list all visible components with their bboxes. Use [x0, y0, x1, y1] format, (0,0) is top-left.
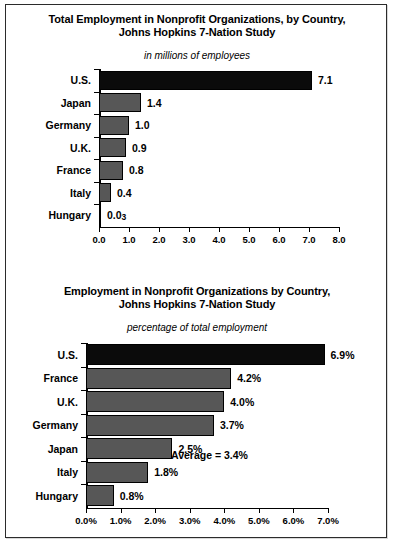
- chart-title: Employment in Nonprofit Organizations by…: [17, 267, 377, 311]
- category-label: Germany: [32, 420, 78, 431]
- category-label: U.K.: [57, 397, 78, 408]
- bar-value-label: 4.0%: [230, 397, 254, 408]
- category-label: France: [57, 165, 91, 176]
- x-axis-tick: [309, 228, 310, 232]
- bar-value-label: 1.4: [147, 98, 162, 109]
- bar: [86, 438, 172, 459]
- x-axis-tick-label: 7.0%: [308, 515, 348, 526]
- bar: [99, 116, 129, 135]
- bar-value-label: 3.7%: [220, 420, 244, 431]
- category-label: Italy: [70, 188, 91, 199]
- chart-total-employment: Total Employment in Nonprofit Organizati…: [6, 5, 388, 267]
- bar: [99, 161, 123, 180]
- bar: [99, 138, 126, 157]
- bar-value-label: 0.8%: [120, 491, 144, 502]
- bar: [99, 71, 312, 90]
- x-axis-tick: [99, 228, 100, 232]
- bar-value-label: 0.9: [132, 143, 147, 154]
- plot-area: 0.01.02.03.04.05.06.07.08.0U.S.7.1Japan1…: [6, 67, 388, 242]
- category-label: Hungary: [48, 210, 91, 221]
- category-label: Japan: [61, 98, 91, 109]
- bar: [86, 368, 231, 389]
- x-axis-tick: [279, 228, 280, 232]
- bar: [86, 391, 224, 412]
- chart-percentage-employment: Employment in Nonprofit Organizations by…: [6, 267, 388, 539]
- category-label: France: [44, 373, 78, 384]
- x-axis-tick: [155, 509, 156, 513]
- x-axis-tick: [328, 509, 329, 513]
- chart-title-line-1: Total Employment in Nonprofit Organizati…: [17, 13, 377, 26]
- bar: [86, 485, 114, 506]
- x-axis-tick: [224, 509, 225, 513]
- bar-value-label: 1.8%: [154, 467, 178, 478]
- bar: [99, 183, 111, 202]
- x-axis-tick: [86, 509, 87, 513]
- bar-value-label: 0.03: [107, 210, 126, 222]
- category-label: Italy: [57, 467, 78, 478]
- chart-title-line-2: Johns Hopkins 7-Nation Study: [17, 298, 377, 311]
- x-axis-tick-label: 8.0: [319, 234, 359, 245]
- figure-frame: Total Employment in Nonprofit Organizati…: [5, 4, 387, 538]
- bar: [99, 93, 141, 112]
- chart-title: Total Employment in Nonprofit Organizati…: [17, 5, 377, 39]
- bar: [86, 344, 325, 365]
- category-label: Hungary: [35, 491, 78, 502]
- bar-value-label: 0.4: [117, 188, 132, 199]
- chart-subtitle: in millions of employees: [6, 50, 388, 61]
- average-annotation: Average = 3.4%: [171, 449, 248, 461]
- x-axis-tick: [190, 509, 191, 513]
- x-axis-tick: [121, 509, 122, 513]
- bar-value-label: 4.2%: [237, 373, 261, 384]
- chart-title-line-1: Employment in Nonprofit Organizations by…: [17, 285, 377, 298]
- bar-value-label: 1.0: [135, 120, 150, 131]
- category-label: U.S.: [58, 350, 78, 361]
- bar-value-label: 6.9%: [331, 350, 355, 361]
- x-axis-tick: [259, 509, 260, 513]
- bar-value-label: 7.1: [318, 75, 333, 86]
- category-label: U.K.: [70, 143, 91, 154]
- bar: [99, 206, 101, 225]
- category-label: U.S.: [71, 75, 91, 86]
- plot-area: 0.0%1.0%2.0%3.0%4.0%5.0%6.0%7.0%U.S.6.9%…: [6, 341, 388, 521]
- chart-title-line-2: Johns Hopkins 7-Nation Study: [17, 26, 377, 39]
- chart-subtitle: percentage of total employment: [6, 322, 388, 333]
- category-label: Japan: [48, 444, 78, 455]
- x-axis-tick: [219, 228, 220, 232]
- x-axis-tick: [293, 509, 294, 513]
- bar: [86, 462, 148, 483]
- x-axis-tick: [189, 228, 190, 232]
- x-axis-tick: [249, 228, 250, 232]
- category-label: Germany: [45, 120, 91, 131]
- x-axis-tick: [339, 228, 340, 232]
- bar: [86, 415, 214, 436]
- x-axis-tick: [129, 228, 130, 232]
- bar-value-label: 0.8: [129, 165, 144, 176]
- x-axis-tick: [159, 228, 160, 232]
